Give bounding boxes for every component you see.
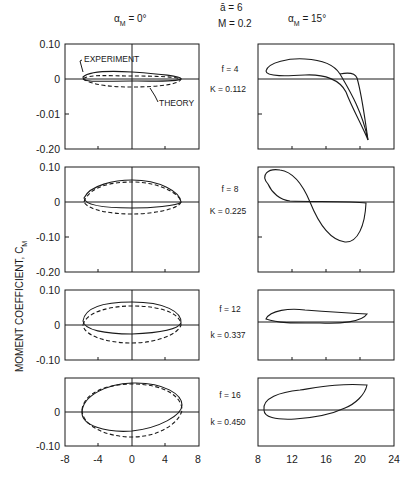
plot-right-4 (258, 378, 394, 446)
ytick-3-2: -0.10 (36, 354, 60, 366)
xtick-left-4: 8 (195, 453, 201, 465)
row3-f: f = 12 (219, 304, 241, 314)
plot-right-1 (258, 44, 394, 149)
mach-label: M = 0.2 (218, 18, 252, 29)
ytick-1-3: -0.20 (36, 143, 60, 155)
legend-experiment: EXPERIMENT (84, 54, 139, 64)
row2-f: f = 8 (222, 184, 239, 194)
y-axis-label: MOMENT COEFFICIENT, CM (14, 241, 28, 372)
xtick-right-3: 20 (354, 453, 366, 465)
ytick-1-0: 0.10 (40, 38, 61, 50)
figure: αM = 0° αM = 15° ā = 6 M = 0.2 MOMENT CO… (0, 0, 403, 479)
xtick-right-2: 16 (320, 453, 332, 465)
legend-theory: THEORY (159, 98, 195, 108)
xtick-right-4: 24 (388, 453, 400, 465)
ytick-1-2: -0.01 (36, 108, 60, 120)
row1-f: f = 4 (222, 64, 239, 74)
xtick-left-1: -4 (93, 453, 102, 465)
ytick-3-0: 0.10 (40, 284, 61, 296)
row2-k: K = 0.225 (210, 206, 247, 216)
ytick-3-1: 0 (54, 319, 60, 331)
xtick-right-1: 12 (286, 453, 298, 465)
row1-k: K = 0.112 (210, 84, 246, 94)
plot-right-2 (258, 167, 394, 272)
xtick-left-2: 0 (129, 453, 135, 465)
ytick-2-3: -0.20 (36, 266, 60, 278)
ytick-4-2: -0.10 (36, 440, 60, 452)
row4-k: k = 0.450 (210, 417, 245, 427)
alpha-bar-label: ā = 6 (220, 2, 243, 13)
xtick-left-3: 4 (162, 453, 168, 465)
ytick-2-1: 0 (54, 196, 60, 208)
plot-right-3 (258, 290, 394, 360)
xtick-left-0: -8 (60, 453, 69, 465)
xtick-right-0: 8 (255, 453, 261, 465)
left-column-title: αM = 0° (114, 13, 147, 27)
ytick-1-1: 0 (54, 73, 60, 85)
row4-f: f = 16 (219, 390, 241, 400)
ytick-2-0: 0.10 (40, 161, 61, 173)
ytick-4-1: 0 (54, 406, 60, 418)
right-column-title: αM = 15° (288, 13, 326, 27)
ytick-2-2: -0.10 (36, 231, 60, 243)
row3-k: k = 0.337 (210, 330, 245, 340)
